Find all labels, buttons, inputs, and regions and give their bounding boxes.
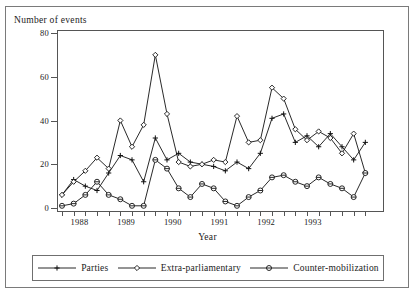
chart-legend: PartiesExtra-parliamentaryCounter-mobili…	[32, 255, 384, 281]
y-tick-label: 40	[23, 116, 49, 126]
diamond-marker	[117, 262, 157, 274]
series-parties	[59, 111, 368, 197]
figure-root: Number of events Year 020406080 19881989…	[0, 0, 415, 294]
line-chart-svg	[58, 31, 383, 211]
y-tick-label: 80	[23, 28, 49, 38]
x-tick-label: 1988	[60, 217, 100, 227]
legend-label: Counter-mobilization	[293, 263, 379, 273]
plot-area	[57, 30, 384, 212]
legend-label: Extra-parliamentary	[161, 263, 241, 273]
legend-item-counter-mobilization[interactable]: Counter-mobilization	[249, 262, 379, 274]
y-tick-label: 60	[23, 72, 49, 82]
series-extra-parliamentary	[59, 52, 368, 197]
x-tick-label: 1991	[200, 217, 240, 227]
plus-marker	[37, 262, 77, 274]
y-axis-label: Number of events	[14, 15, 87, 25]
x-tick-label: 1993	[293, 217, 333, 227]
y-tick-label: 0	[23, 203, 49, 213]
legend-item-extra-parliamentary[interactable]: Extra-parliamentary	[117, 262, 241, 274]
x-tick-label: 1992	[246, 217, 286, 227]
x-tick-label: 1990	[153, 217, 193, 227]
legend-item-parties[interactable]: Parties	[37, 262, 108, 274]
y-tick-label: 20	[23, 159, 49, 169]
circle-bar-marker	[249, 262, 289, 274]
x-tick-label: 1989	[106, 217, 146, 227]
legend-label: Parties	[81, 263, 108, 273]
x-axis-label: Year	[0, 232, 415, 242]
